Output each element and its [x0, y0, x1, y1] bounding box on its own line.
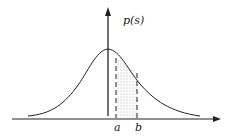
shaded-area	[116, 58, 137, 118]
density-diagram: p(s) a b	[0, 0, 230, 139]
marker-a-label: a	[114, 121, 121, 134]
diagram-canvas: p(s) a b	[0, 0, 230, 139]
y-axis-arrow-icon	[105, 7, 111, 16]
marker-b-label: b	[135, 121, 142, 134]
density-curve	[28, 49, 200, 116]
y-axis-label: p(s)	[123, 14, 144, 27]
y-axis	[105, 7, 111, 116]
x-axis-arrow-icon	[213, 116, 221, 122]
